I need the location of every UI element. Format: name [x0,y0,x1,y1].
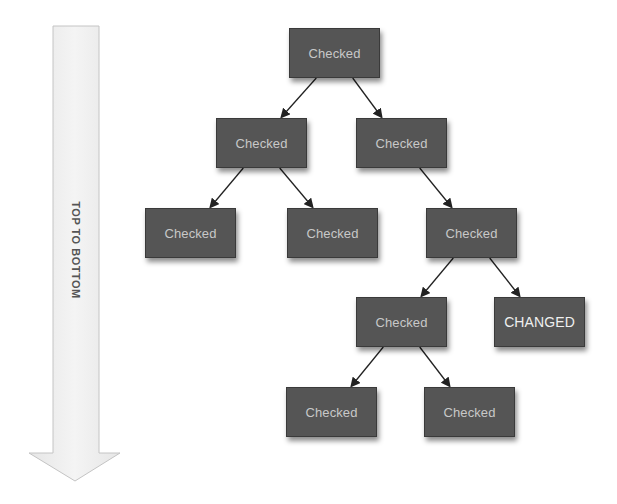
edge-arrow [352,347,384,386]
edge-arrow [282,78,317,117]
edge-arrow [420,347,450,386]
node-label: Checked [445,226,497,241]
node-label: Checked [375,315,427,330]
node-label: Checked [443,405,495,420]
node-label: CHANGED [504,314,575,330]
edge-arrow [280,168,313,207]
direction-label-text: TOP TO BOTTOM [70,201,82,298]
tree-diagram: TOP TO BOTTOM Checked Checked Checked Ch… [0,0,617,504]
edge-arrow [422,258,454,296]
node-l2b: Checked [356,118,447,168]
node-l3a: Checked [145,208,236,258]
edge-arrow [211,168,244,207]
node-label: Checked [235,136,287,151]
node-label: Checked [306,226,358,241]
node-l3b: Checked [287,208,378,258]
node-label: Checked [375,136,427,151]
node-l2a: Checked [216,118,307,168]
edge-arrow [490,258,520,296]
node-l3c: Checked [426,208,517,258]
node-root: Checked [289,28,380,78]
direction-label: TOP TO BOTTOM [66,190,86,310]
node-l5b: Checked [424,387,515,437]
edge-arrow [353,78,382,117]
node-label: Checked [308,46,360,61]
node-label: Checked [164,226,216,241]
node-l5a: Checked [286,387,377,437]
edge-arrow [420,168,452,207]
node-changed: CHANGED [494,297,585,347]
node-label: Checked [305,405,357,420]
node-l4a: Checked [356,297,447,347]
